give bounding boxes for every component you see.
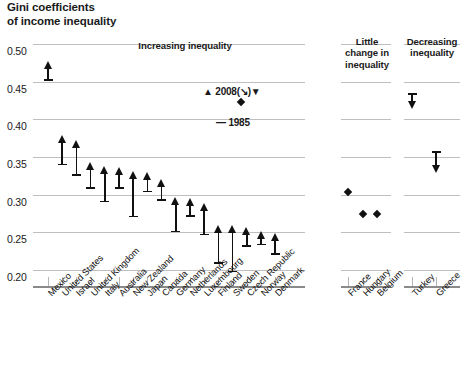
baseline-cap-1985	[257, 244, 266, 246]
data-marker	[370, 0, 384, 371]
data-marker	[197, 0, 211, 371]
baseline-cap-1985	[86, 187, 95, 189]
baseline-cap-1985	[44, 79, 53, 81]
arrow-stem	[132, 176, 134, 216]
arrowhead-up-2008	[186, 198, 194, 206]
arrowhead-up-2008	[200, 203, 208, 211]
baseline-cap-1985	[271, 253, 280, 255]
arrow-stem	[90, 167, 92, 188]
y-tick-label: 0.50	[7, 45, 27, 57]
data-marker	[169, 0, 183, 371]
arrow-stem	[104, 171, 106, 202]
arrowhead-up-2008	[44, 61, 52, 69]
data-marker	[84, 0, 98, 371]
baseline-cap-1985	[242, 245, 251, 247]
baseline-cap-1985	[157, 199, 166, 201]
data-marker	[112, 0, 126, 371]
arrowhead-up-2008	[242, 227, 250, 235]
data-marker	[405, 0, 419, 371]
arrowhead-up-2008	[271, 233, 279, 241]
data-marker	[126, 0, 140, 371]
y-tick-label: 0.20	[7, 271, 27, 283]
baseline-cap-1985	[72, 174, 81, 176]
arrowhead-up-2008	[143, 172, 151, 180]
arrowhead-up-2008	[257, 231, 265, 239]
arrowhead-down-2008	[408, 101, 416, 109]
arrowhead-up-2008	[58, 135, 66, 143]
baseline-cap-1985	[143, 191, 152, 193]
arrowhead-up-2008	[171, 197, 179, 205]
y-tick-label: 0.30	[7, 196, 27, 208]
data-marker	[226, 0, 240, 371]
arrow-stem	[175, 202, 177, 231]
diamond-marker	[358, 210, 366, 218]
arrowhead-up-2008	[72, 140, 80, 148]
arrowhead-up-2008	[157, 179, 165, 187]
baseline-cap-1985	[408, 93, 417, 95]
data-marker	[240, 0, 254, 371]
baseline-cap-1985	[100, 201, 109, 203]
data-marker	[254, 0, 268, 371]
data-marker	[183, 0, 197, 371]
y-tick-label: 0.40	[7, 120, 27, 132]
data-marker	[41, 0, 55, 371]
data-marker	[140, 0, 154, 371]
diamond-marker	[373, 209, 381, 217]
arrowhead-down-2008	[432, 165, 440, 173]
baseline-cap-1985	[129, 216, 138, 218]
baseline-cap-1985	[115, 187, 124, 189]
baseline-cap-1985	[171, 231, 180, 233]
arrowhead-up-2008	[115, 167, 123, 175]
data-marker	[69, 0, 83, 371]
arrow-stem	[61, 140, 63, 165]
legend-2008: ▲ 2008(↘)▼	[203, 86, 260, 97]
y-tick-label: 0.35	[7, 158, 27, 170]
gini-inequality-chart: Gini coefficients of income inequality 0…	[0, 0, 467, 371]
data-marker	[98, 0, 112, 371]
arrowhead-up-2008	[86, 162, 94, 170]
data-marker	[55, 0, 69, 371]
plot-area: 0.500.450.400.350.300.250.20Increasing i…	[0, 0, 467, 371]
arrowhead-up-2008	[129, 171, 137, 179]
baseline-cap-1985	[200, 234, 209, 236]
arrow-stem	[76, 145, 78, 175]
arrowhead-up-2008	[214, 225, 222, 233]
data-marker	[429, 0, 443, 371]
data-marker	[268, 0, 282, 371]
arrow-stem	[203, 208, 205, 235]
data-marker	[341, 0, 355, 371]
arrowhead-up-2008	[100, 166, 108, 174]
y-tick-label: 0.25	[7, 233, 27, 245]
legend-1985: — 1985	[216, 117, 250, 128]
baseline-cap-1985	[58, 164, 67, 166]
data-marker	[155, 0, 169, 371]
y-tick-label: 0.45	[7, 83, 27, 95]
data-marker	[211, 0, 225, 371]
baseline-cap-1985	[432, 151, 441, 153]
arrowhead-up-2008	[228, 225, 236, 233]
baseline-cap-1985	[186, 215, 195, 217]
diamond-marker	[344, 188, 352, 196]
data-marker	[356, 0, 370, 371]
